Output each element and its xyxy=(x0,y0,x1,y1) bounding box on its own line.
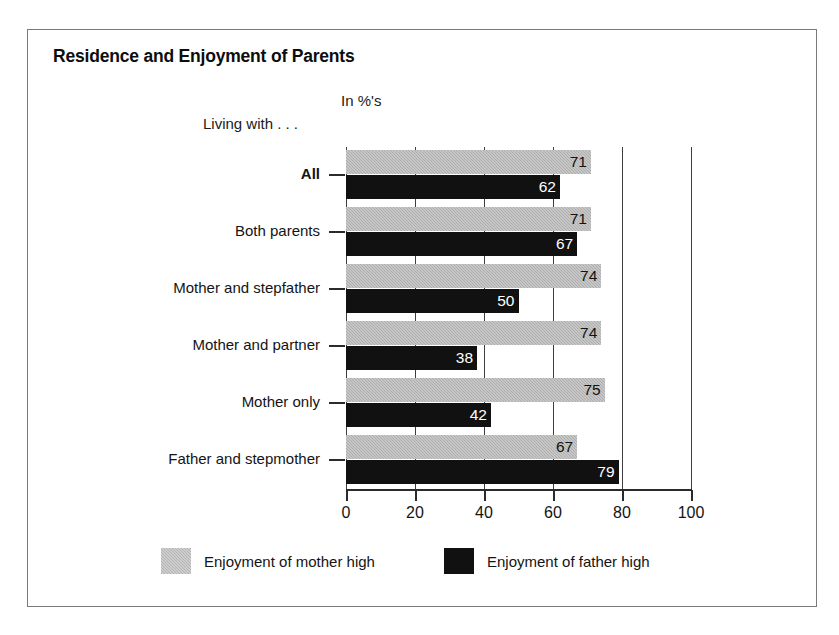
category-label: Mother and partner xyxy=(192,336,320,353)
bar-father: 38 xyxy=(346,346,477,370)
bar-father: 50 xyxy=(346,289,519,313)
bar-group: 7162 xyxy=(346,150,691,199)
bar-value-label: 42 xyxy=(470,407,487,423)
xtick-label-20: 20 xyxy=(406,504,424,522)
chart-title: Residence and Enjoyment of Parents xyxy=(53,46,354,67)
bar-mother: 74 xyxy=(346,321,601,345)
bar-father: 62 xyxy=(346,175,560,199)
bar-father: 79 xyxy=(346,460,619,484)
category-label: All xyxy=(301,165,320,182)
bar-mother: 71 xyxy=(346,207,591,231)
category-label: Mother only xyxy=(242,393,320,410)
bar-mother: 74 xyxy=(346,264,601,288)
gridline-100 xyxy=(691,147,692,489)
xtick-40 xyxy=(484,490,486,501)
category-label: Mother and stepfather xyxy=(173,279,320,296)
legend-label: Enjoyment of father high xyxy=(487,553,650,570)
bar-value-label: 50 xyxy=(497,293,514,309)
bar-value-label: 67 xyxy=(556,236,573,252)
chart-legend: Enjoyment of mother highEnjoyment of fat… xyxy=(161,548,741,588)
xtick-label-60: 60 xyxy=(544,504,562,522)
bar-value-label: 79 xyxy=(597,464,614,480)
bar-value-label: 71 xyxy=(570,154,587,170)
bar-group: 7450 xyxy=(346,264,691,313)
chart-frame: Residence and Enjoyment of Parents In %'… xyxy=(27,29,817,607)
bar-group: 7167 xyxy=(346,207,691,256)
xtick-20 xyxy=(415,490,417,501)
value-axis-line xyxy=(346,489,692,491)
xtick-100 xyxy=(691,490,693,501)
bar-mother: 71 xyxy=(346,150,591,174)
legend-entry[interactable]: Enjoyment of father high xyxy=(444,548,650,574)
bar-value-label: 75 xyxy=(584,382,601,398)
category-label: Both parents xyxy=(235,222,320,239)
bar-value-label: 71 xyxy=(570,211,587,227)
category-tick xyxy=(329,345,345,347)
category-tick xyxy=(329,231,345,233)
xtick-60 xyxy=(553,490,555,501)
bar-mother: 75 xyxy=(346,378,605,402)
xtick-label-40: 40 xyxy=(475,504,493,522)
bar-group: 6779 xyxy=(346,435,691,484)
category-tick xyxy=(329,402,345,404)
category-label: Father and stepmother xyxy=(168,450,320,467)
xtick-0 xyxy=(346,490,348,501)
legend-swatch-father xyxy=(444,548,474,574)
bar-father: 42 xyxy=(346,403,491,427)
xtick-label-100: 100 xyxy=(678,504,705,522)
xtick-80 xyxy=(622,490,624,501)
xtick-label-80: 80 xyxy=(613,504,631,522)
legend-entry[interactable]: Enjoyment of mother high xyxy=(161,548,375,574)
bar-mother: 67 xyxy=(346,435,577,459)
legend-label: Enjoyment of mother high xyxy=(204,553,375,570)
bar-value-label: 62 xyxy=(539,179,556,195)
plot-area: 716271677450743875426779 xyxy=(346,147,691,489)
category-axis-caption: Living with . . . xyxy=(203,115,298,132)
bar-group: 7542 xyxy=(346,378,691,427)
category-tick xyxy=(329,288,345,290)
units-note: In %'s xyxy=(341,92,381,109)
bar-value-label: 74 xyxy=(580,325,597,341)
category-tick xyxy=(329,459,345,461)
category-tick xyxy=(329,174,345,176)
bar-father: 67 xyxy=(346,232,577,256)
bar-group: 7438 xyxy=(346,321,691,370)
bar-value-label: 67 xyxy=(556,439,573,455)
legend-swatch-mother xyxy=(161,548,191,574)
xtick-label-0: 0 xyxy=(342,504,351,522)
bar-value-label: 38 xyxy=(456,350,473,366)
bar-value-label: 74 xyxy=(580,268,597,284)
